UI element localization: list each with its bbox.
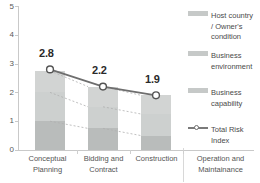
value-label-conceptual-planning: 2.8 — [39, 47, 54, 59]
y-tick-label-3: 3 — [0, 60, 14, 68]
legend-item-business-capability[interactable]: Business capability — [188, 81, 260, 109]
legend-swatch-icon — [188, 51, 208, 56]
legend-swatch-icon — [188, 11, 208, 16]
legend-line-marker-icon — [188, 125, 208, 130]
chart-legend: Host country / Owner's condition Busines… — [188, 4, 260, 148]
connector-business-cap-a — [50, 121, 88, 128]
connector-host-country-a — [50, 71, 88, 87]
legend-label-line2: environment — [188, 61, 260, 72]
value-label-bidding-and-contract: 2.2 — [92, 64, 107, 76]
x-label-operation-and-maintainance: Operation and Maintainance — [183, 153, 258, 175]
x-label-line2: Maintainance — [183, 164, 258, 175]
y-tick-label-4: 4 — [0, 31, 14, 39]
x-label-line1: Bidding and — [77, 153, 130, 164]
legend-swatch-icon — [188, 88, 208, 93]
y-tick-label-1: 1 — [0, 117, 14, 125]
legend-label-line1: Host country — [211, 11, 253, 20]
legend-label-line2: capability — [188, 98, 260, 109]
x-label-line1: Operation and — [183, 153, 258, 164]
total-risk-marker-2 — [100, 83, 107, 90]
legend-label-line1: Total Risk — [211, 125, 244, 134]
x-label-line2: Contract — [77, 164, 130, 175]
y-tick-label-0: 0 — [0, 146, 14, 154]
legend-label-line2: Index — [188, 135, 260, 146]
x-label-line1: Construction — [130, 153, 183, 164]
x-label-line1: Conceptual — [18, 153, 77, 164]
x-label-construction: Construction — [130, 153, 183, 164]
risk-index-stacked-bar-chart: 5 4 3 2 1 0 — [0, 0, 260, 183]
value-label-construction: 1.9 — [145, 73, 160, 85]
x-label-conceptual-planning: Conceptual Planning — [18, 153, 77, 175]
connector-business-env-b — [103, 107, 141, 114]
legend-item-host-country[interactable]: Host country / Owner's condition — [188, 4, 260, 42]
y-tick-mark-0 — [15, 150, 19, 151]
legend-item-business-environment[interactable]: Business environment — [188, 44, 260, 72]
legend-label-line1: Business — [211, 88, 241, 97]
connector-business-env-a — [50, 92, 88, 106]
x-label-line2: Planning — [18, 164, 77, 175]
x-label-bidding-and-contract: Bidding and Contract — [77, 153, 130, 175]
legend-label-line1: Business — [211, 51, 241, 60]
legend-item-total-risk-index[interactable]: Total Risk Index — [188, 118, 260, 146]
x-axis-line — [18, 150, 254, 151]
connector-business-cap-b — [103, 128, 141, 135]
total-risk-marker-1 — [47, 66, 54, 73]
total-risk-marker-3 — [153, 92, 160, 99]
y-tick-label-5: 5 — [0, 3, 14, 11]
plot-area: 2.8 2.2 1.9 — [18, 6, 183, 150]
y-tick-label-2: 2 — [0, 89, 14, 97]
legend-label-line3: condition — [188, 31, 260, 42]
